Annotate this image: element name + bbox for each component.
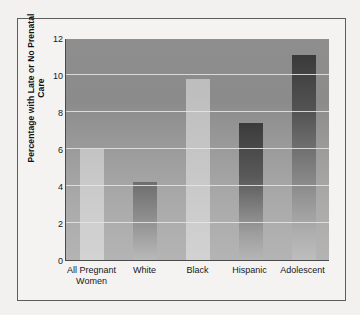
y-axis-tick-labels: 024681012 <box>33 39 63 261</box>
y-tick-label-2: 2 <box>37 220 63 229</box>
x-tick-label-line: Adolescent <box>276 265 329 276</box>
bar-white <box>133 182 157 260</box>
x-tick-label-line: White <box>118 265 171 276</box>
x-axis-tick-labels: All PregnantWomenWhiteBlackHispanicAdole… <box>65 265 329 299</box>
x-tick-label-line: Women <box>65 276 118 287</box>
x-tick-label-white: White <box>118 265 171 276</box>
bar-black <box>186 79 210 260</box>
x-tick-label-line: All Pregnant <box>65 265 118 276</box>
x-tick-label-all-pregnant-women: All PregnantWomen <box>65 265 118 286</box>
y-tick-label-8: 8 <box>37 109 63 118</box>
y-tick-label-0: 0 <box>37 257 63 266</box>
y-tick-label-12: 12 <box>37 35 63 44</box>
x-tick-label-black: Black <box>171 265 224 276</box>
x-tick-label-line: Black <box>171 265 224 276</box>
x-tick-label-hispanic: Hispanic <box>223 265 276 276</box>
bar-all-pregnant-women <box>80 149 104 260</box>
y-tick-label-10: 10 <box>37 72 63 81</box>
y-tick-label-4: 4 <box>37 183 63 192</box>
bar-adolescent <box>292 55 316 260</box>
plot-area <box>65 39 329 261</box>
gridline-y-10 <box>66 74 329 75</box>
chart-figure-frame: Percentage with Late or No Prenatal Care… <box>17 18 346 301</box>
x-tick-label-adolescent: Adolescent <box>276 265 329 276</box>
x-tick-label-line: Hispanic <box>223 265 276 276</box>
bar-hispanic <box>239 123 263 260</box>
y-tick-label-6: 6 <box>37 146 63 155</box>
